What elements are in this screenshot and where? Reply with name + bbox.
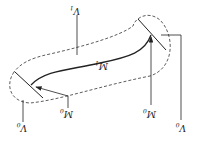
left-cut-line (15, 72, 43, 98)
label-v1: V1 (70, 5, 80, 16)
left-m0-leader (36, 87, 68, 108)
label-v0-left: V0 (17, 122, 28, 133)
label-m0-right: M0 (143, 108, 157, 119)
label-v0-right: V0 (176, 122, 187, 133)
diagram: V1 M1 M0 M0 V0 V0 (0, 0, 197, 145)
label-m0-left: M0 (60, 108, 74, 119)
label-m1: M1 (95, 60, 109, 71)
right-cut-line (138, 19, 166, 50)
m1-curve (31, 35, 151, 85)
